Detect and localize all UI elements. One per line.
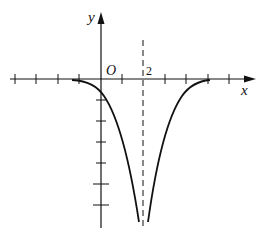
x-tick-label-2: 2 [146, 64, 152, 78]
y-axis-label: y [86, 9, 95, 25]
origin-label: O [106, 63, 116, 78]
y-axis-arrow-icon [98, 12, 105, 24]
function-graph: y x O 2 [0, 0, 263, 233]
left-branch-curve [72, 80, 139, 222]
x-axis-label: x [240, 82, 248, 98]
right-branch-curve [148, 80, 210, 222]
